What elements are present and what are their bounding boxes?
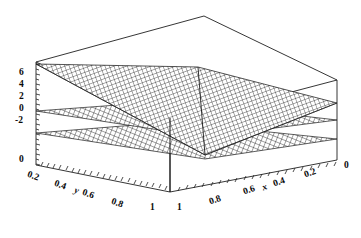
x-tick-label-0: 0 [344, 161, 349, 171]
z-tick-label-2: 2 [19, 92, 24, 102]
z-tick-label-0: 0 [19, 104, 24, 114]
y-tick-label-1: 1 [150, 203, 155, 213]
y-tick-label-0: 0 [19, 155, 24, 165]
z-tick-label-minus-2: -2 [15, 116, 23, 126]
x-tick-label-1: 1 [177, 203, 182, 213]
z-tick-label-6: 6 [19, 68, 24, 78]
surface-plot-figure: 6 4 2 0 -2 0 0.2 0.4 y 0.6 0.8 1 1 0.8 0… [0, 0, 361, 238]
z-tick-label-4: 4 [19, 80, 24, 90]
z-axis-ticks [36, 64, 40, 165]
